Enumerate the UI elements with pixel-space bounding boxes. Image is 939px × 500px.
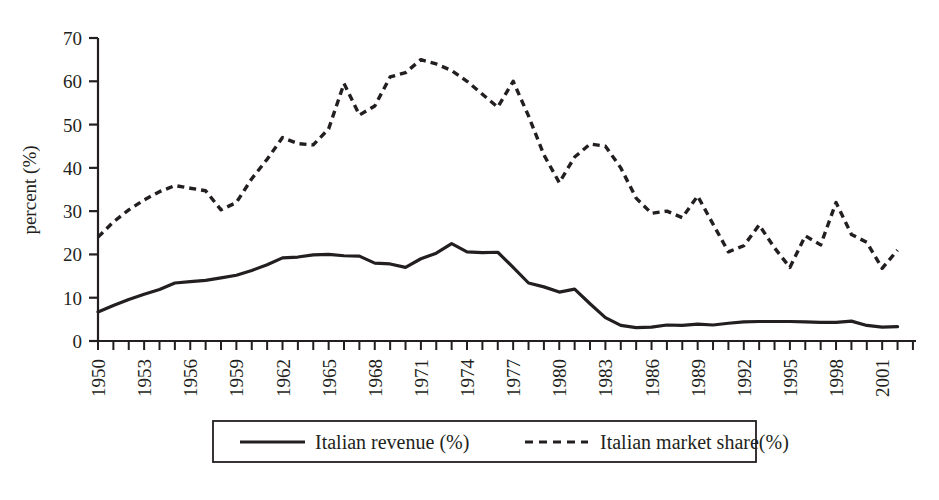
data-series-layer	[98, 60, 898, 328]
x-tick-label: 1989	[688, 359, 709, 397]
chart-figure: 010203040506070 195019531956195919621965…	[0, 0, 939, 500]
x-tick-label: 1995	[780, 359, 801, 397]
y-tick-label: 50	[63, 115, 82, 136]
y-axis-tick-labels: 010203040506070	[63, 28, 82, 352]
x-tick-label: 1992	[734, 359, 755, 397]
axes-frame	[98, 38, 916, 341]
legend-label-italian-revenue: Italian revenue (%)	[315, 431, 469, 454]
y-tick-label: 10	[63, 288, 82, 309]
line-chart: 010203040506070 195019531956195919621965…	[0, 0, 939, 500]
x-tick-label: 1953	[134, 359, 155, 397]
series-line-italian-market-share	[98, 60, 898, 269]
x-axis-tick-labels: 1950195319561959196219651968197119741977…	[88, 359, 893, 398]
y-tick-label: 20	[63, 244, 82, 265]
x-tick-label: 1983	[595, 359, 616, 397]
y-tick-label: 30	[63, 201, 82, 222]
y-axis-ticks	[89, 38, 98, 341]
y-tick-label: 0	[73, 331, 83, 352]
y-tick-label: 70	[63, 28, 82, 49]
x-tick-label: 1977	[503, 359, 524, 397]
x-tick-label: 1974	[457, 359, 478, 398]
series-line-italian-revenue	[98, 244, 898, 328]
legend: Italian revenue (%) Italian market share…	[213, 421, 789, 462]
x-tick-label: 1965	[319, 359, 340, 397]
x-tick-label: 1998	[826, 359, 847, 397]
y-axis-title: percent (%)	[19, 145, 41, 234]
x-tick-label: 1956	[180, 359, 201, 397]
x-tick-label: 1971	[411, 359, 432, 397]
y-tick-label: 40	[63, 158, 82, 179]
y-tick-label: 60	[63, 71, 82, 92]
x-tick-label: 1968	[365, 359, 386, 397]
legend-label-italian-market-share: Italian market share(%)	[600, 431, 789, 454]
x-tick-label: 1959	[226, 359, 247, 397]
x-tick-label: 2001	[872, 359, 893, 397]
x-tick-label: 1962	[273, 359, 294, 397]
x-tick-label: 1950	[88, 359, 109, 397]
x-tick-label: 1980	[549, 359, 570, 397]
x-tick-label: 1986	[642, 359, 663, 397]
x-axis-ticks	[98, 341, 913, 350]
